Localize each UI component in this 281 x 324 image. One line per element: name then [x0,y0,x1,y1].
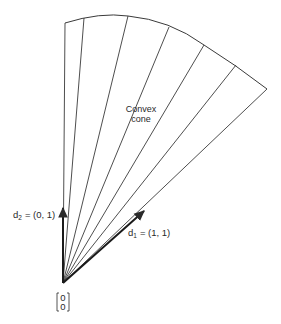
cone-rays [63,16,267,283]
cone-ray [63,18,84,283]
svg-text:d1= (1, 1): d1= (1, 1) [128,227,170,239]
vector-d2-label: d2= (0, 1) [13,209,55,221]
cone-boundary-arc [65,15,267,89]
cone-ray [63,89,267,283]
convex-cone-diagram: Convex cone d2= (0, 1) d1= (1, 1) 0 0 [0,0,281,324]
origin-bottom-zero: 0 [60,301,65,312]
svg-text:d2= (0, 1): d2= (0, 1) [13,209,55,221]
cone-ray [63,65,236,283]
cone-ray [63,45,204,283]
cone-label-line2: cone [131,114,151,124]
origin-vector-label: 0 0 [57,292,69,312]
vector-d1-arrow [63,211,144,283]
cone-label-line1: Convex [126,104,157,114]
vector-d1-label: d1= (1, 1) [128,227,170,239]
